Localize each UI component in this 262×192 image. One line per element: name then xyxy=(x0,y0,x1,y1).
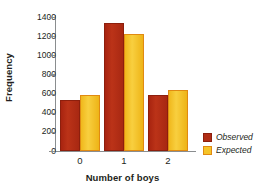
bar-expected-0 xyxy=(80,95,100,151)
y-axis-tick-mark xyxy=(49,151,55,152)
x-axis-title: Number of boys xyxy=(49,172,196,183)
bar-expected-1 xyxy=(124,34,144,151)
x-axis-line xyxy=(49,151,196,152)
x-axis-tick-label: 0 xyxy=(60,155,100,166)
y-axis-tick-mark xyxy=(49,74,55,75)
bar-observed-1 xyxy=(104,23,124,151)
y-axis-tick-mark xyxy=(49,94,55,95)
plot-area xyxy=(56,17,195,151)
legend-item-expected: Expected xyxy=(203,144,253,156)
y-axis-tick-mark xyxy=(49,17,55,18)
y-axis-tick-mark xyxy=(49,113,55,114)
y-axis-title-label: Frequency xyxy=(3,53,14,102)
y-axis-tick-mark xyxy=(49,132,55,133)
bar-observed-0 xyxy=(60,100,80,151)
x-axis-tick-label: 1 xyxy=(104,155,144,166)
observed-swatch-icon xyxy=(203,133,212,142)
legend-item-observed: Observed xyxy=(203,131,253,143)
legend-label-observed: Observed xyxy=(216,132,253,142)
legend-label-expected: Expected xyxy=(216,145,251,155)
bar-expected-2 xyxy=(168,90,188,151)
bar-observed-2 xyxy=(148,95,168,151)
expected-swatch-icon xyxy=(203,146,212,155)
y-axis-tick-mark xyxy=(49,36,55,37)
legend: Observed Expected xyxy=(203,131,253,157)
y-axis-title: Frequency xyxy=(0,0,16,155)
x-axis-tick-label: 2 xyxy=(148,155,188,166)
y-axis-tick-mark xyxy=(49,55,55,56)
bar-chart: Frequency 0200400600800100012001400 012 … xyxy=(0,0,262,192)
